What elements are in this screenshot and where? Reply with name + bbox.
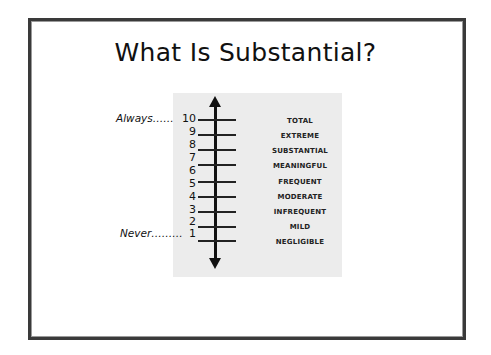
scale-number: 2 xyxy=(189,216,196,227)
scale-tick xyxy=(198,149,236,151)
slide-title: What Is Substantial? xyxy=(0,38,491,67)
scale-tick xyxy=(198,134,236,136)
arrow-down-icon xyxy=(209,258,221,269)
level-label: FREQUENT xyxy=(250,178,350,186)
scale-tick xyxy=(198,181,236,183)
scale-tick xyxy=(198,119,236,121)
level-label: SUBSTANTIAL xyxy=(250,147,350,155)
scale-tick xyxy=(198,240,236,242)
scale-number: 4 xyxy=(189,191,196,202)
scale-number: 9 xyxy=(189,126,196,137)
level-label: INFREQUENT xyxy=(250,208,350,216)
never-label: Never……… xyxy=(120,228,183,239)
scale-tick xyxy=(198,164,236,166)
level-label: MILD xyxy=(250,223,350,231)
scale-tick xyxy=(198,211,236,213)
level-label: NEGLIGIBLE xyxy=(250,238,350,246)
scale-number: 3 xyxy=(189,204,196,215)
scale-axis xyxy=(214,103,217,263)
scale-number: 7 xyxy=(189,152,196,163)
level-label: EXTREME xyxy=(250,132,350,140)
scale-number: 10 xyxy=(182,113,196,124)
scale-number: 5 xyxy=(189,178,196,189)
arrow-up-icon xyxy=(209,96,221,107)
level-label: MODERATE xyxy=(250,193,350,201)
level-label: MEANINGFUL xyxy=(250,162,350,170)
always-label: Always…… xyxy=(116,113,174,124)
level-label: TOTAL xyxy=(250,117,350,125)
scale-tick xyxy=(198,196,236,198)
scale-number: 1 xyxy=(189,228,196,239)
scale-number: 6 xyxy=(189,165,196,176)
scale-tick xyxy=(198,226,236,228)
scale-number: 8 xyxy=(189,139,196,150)
